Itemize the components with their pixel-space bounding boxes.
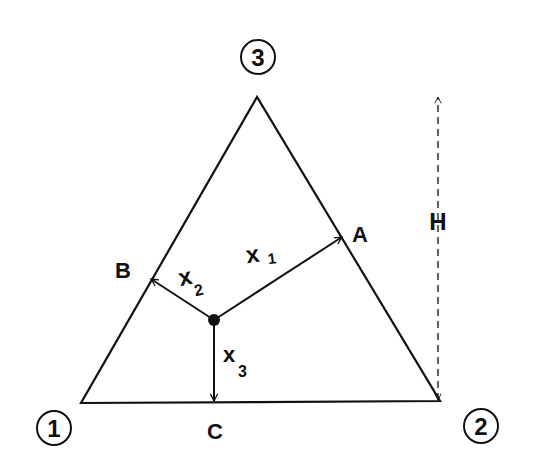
x3-subscript: 3: [238, 363, 247, 380]
x1-base: x: [244, 239, 262, 268]
vertex-3-badge: 3: [241, 40, 275, 74]
vertex-3-label: 3: [251, 44, 264, 71]
x1-arrow: [214, 237, 342, 320]
point-b-label: B: [115, 258, 131, 283]
x2-base: x: [176, 262, 195, 291]
x3-base: x: [223, 342, 236, 367]
x1-subscript: 1: [266, 249, 277, 267]
x3-label: x 3: [223, 342, 247, 380]
x2-label: x 2: [176, 262, 205, 299]
composition-point: [208, 314, 220, 326]
composition-triangle: [81, 97, 440, 403]
point-a-label: A: [352, 222, 368, 247]
x2-subscript: 2: [193, 281, 205, 299]
vertex-1-badge: 1: [37, 411, 71, 445]
height-label: H: [429, 208, 446, 235]
ternary-diagram: 3 1 2 B A C H x 1 x 2 x 3: [0, 0, 534, 472]
vertex-2-badge: 2: [464, 409, 498, 443]
vertex-2-label: 2: [474, 413, 487, 440]
x1-label: x 1: [244, 239, 277, 268]
point-c-label: C: [207, 419, 223, 444]
vertex-1-label: 1: [47, 415, 60, 442]
